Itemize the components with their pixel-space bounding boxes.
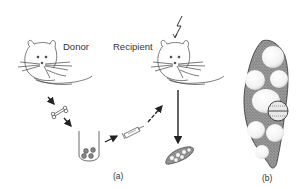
arrow-syringe-to-recipient <box>148 106 162 122</box>
syringe-icon <box>122 126 144 139</box>
arrow-tube-to-syringe <box>105 136 117 142</box>
recipient-label: Recipient <box>113 42 153 52</box>
figure: Donor Recipient (a) (b) <box>0 0 298 189</box>
recipient-mouse-icon <box>151 40 224 84</box>
test-tube-icon <box>79 131 99 161</box>
lightning-bolt-icon <box>173 16 182 38</box>
figure-illustration <box>0 0 298 189</box>
donor-label: Donor <box>63 42 89 52</box>
spleen-enlarged-icon <box>244 40 288 168</box>
spleen-small-icon <box>166 147 194 165</box>
arrow-bone-to-tube <box>64 118 71 126</box>
arrow-donor-to-bone <box>48 97 54 104</box>
panel-a-label: (a) <box>113 172 123 181</box>
panel-b-label: (b) <box>262 174 272 183</box>
sectioned-nodule-icon <box>268 101 288 121</box>
bone-icon <box>51 106 68 119</box>
